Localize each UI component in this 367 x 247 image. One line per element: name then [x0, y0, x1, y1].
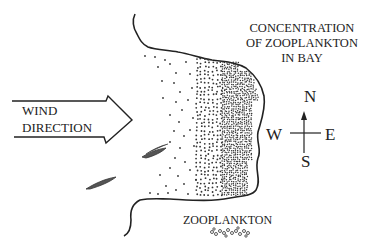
zooplankton-symbol-icon: [211, 227, 250, 237]
title-line-1: CONCENTRATION: [246, 21, 358, 36]
compass-south-label: S: [301, 153, 310, 170]
coastline-north: [124, 14, 264, 236]
title-line-2: OF ZOOPLANKTON: [246, 36, 358, 51]
bay-diagram: CONCENTRATION OF ZOOPLANKTON IN BAY WIND…: [0, 0, 367, 247]
medium-plankton-dots: [195, 58, 223, 197]
dense-plankton-dots: [221, 61, 259, 196]
zooplankton-legend-label: ZOOPLANKTON: [183, 214, 272, 226]
wind-label-line-1: WIND: [22, 104, 57, 117]
wind-label-line-2: DIRECTION: [22, 121, 92, 134]
sparse-plankton-dots: [144, 55, 197, 195]
title-line-3: IN BAY: [246, 51, 358, 66]
compass-east-label: E: [325, 126, 335, 143]
compass-north-label: N: [304, 88, 316, 105]
compass-west-label: W: [266, 126, 282, 143]
diagram-title: CONCENTRATION OF ZOOPLANKTON IN BAY: [246, 21, 358, 66]
compass-icon: [290, 111, 321, 153]
fish-icon: [86, 144, 168, 189]
